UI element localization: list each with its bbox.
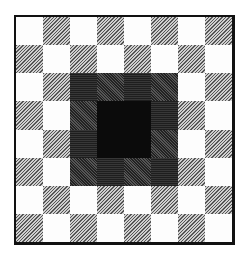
grid-cell-hatch [97,17,124,45]
grid-cell-white [178,17,205,45]
grid-cell-hatch [16,158,43,186]
grid-cell-white [205,45,232,73]
grid-cell-ring-dark [70,101,97,129]
grid-cell-white [178,73,205,101]
grid-cell-ring-light [70,73,97,101]
grid-cell-hatch [151,186,178,214]
grid-cell-white [16,130,43,158]
grid-cell-hatch [16,101,43,129]
grid-cell-ring-light [151,101,178,129]
grid-cell-hatch [16,45,43,73]
grid-cell-core [124,130,151,158]
grid-cell-white [205,101,232,129]
grid-cell-ring-dark [124,158,151,186]
grid-cell-ring-light [97,158,124,186]
grid-cell-white [205,214,232,242]
grid-cell-hatch [43,130,70,158]
grid-cell-hatch [16,214,43,242]
grid-cell-hatch [178,158,205,186]
grid-cell-hatch [70,45,97,73]
grid-cell-white [16,17,43,45]
grid-cell-ring-light [124,73,151,101]
grid-cell-white [124,186,151,214]
checkerboard-figure [14,15,235,245]
grid-cell-ring-light [70,130,97,158]
grid-cell-ring-light [151,158,178,186]
grid-cell-hatch [178,214,205,242]
grid-cell-white [70,186,97,214]
grid-cell-core [124,101,151,129]
grid-cell-white [97,45,124,73]
grid-cell-hatch [43,73,70,101]
grid-cell-hatch [97,186,124,214]
grid-cell-white [70,17,97,45]
grid-cell-white [97,214,124,242]
grid-cell-white [16,186,43,214]
grid-cell-core [97,101,124,129]
grid-cell-hatch [205,186,232,214]
grid-cell-white [43,158,70,186]
grid-cell-white [43,214,70,242]
grid-cell-white [43,45,70,73]
grid-cell-hatch [151,17,178,45]
grid-cell-white [124,17,151,45]
grid-cell-white [205,158,232,186]
grid-cell-core [97,130,124,158]
grid-cell-hatch [43,17,70,45]
grid-cell-hatch [43,186,70,214]
grid-cell-ring-dark [70,158,97,186]
grid-cell-white [151,45,178,73]
grid-cell-white [178,130,205,158]
grid-cell-white [178,186,205,214]
grid-cell-hatch [178,45,205,73]
grid-cell-white [16,73,43,101]
grid-cell-hatch [178,101,205,129]
grid-cell-white [43,101,70,129]
grid-cell-hatch [205,130,232,158]
grid-cell-hatch [205,73,232,101]
grid-cell-white [151,214,178,242]
grid-cell-ring-dark [151,73,178,101]
grid-cell-ring-dark [97,73,124,101]
grid-cell-hatch [124,214,151,242]
grid-cell-hatch [70,214,97,242]
grid-cell-hatch [124,45,151,73]
grid-cell-ring-dark [151,130,178,158]
grid-cell-hatch [205,17,232,45]
